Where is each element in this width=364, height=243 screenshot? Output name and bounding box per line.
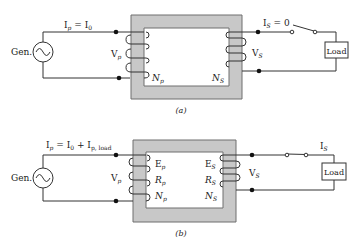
load-a: Load	[325, 42, 348, 58]
secondary-current-label: IS	[320, 141, 328, 152]
terminal-dot	[114, 199, 119, 204]
switch-contact-icon	[285, 153, 289, 157]
primary-voltage-label: Vp	[110, 173, 122, 185]
primary-current-label: Ip = I0 + Ip, load	[46, 140, 112, 152]
generator-label: Gen.	[11, 47, 32, 57]
secondary-turns-label: NS	[211, 73, 224, 84]
diagram-b: Gen. Ip = I0 + Ip, load Vp Ep Rp Np	[11, 140, 346, 238]
secondary-voltage-label: VS	[251, 48, 263, 59]
secondary-resistance-label: RS	[204, 175, 216, 186]
terminal-dot	[256, 30, 261, 35]
caption-a: (a)	[175, 106, 186, 115]
terminal-dot	[114, 30, 119, 35]
primary-resistance-label: Rp	[154, 175, 166, 187]
generator-label: Gen.	[11, 173, 32, 183]
load-b: Load	[322, 163, 346, 180]
secondary-emf-label: ES	[205, 159, 216, 170]
transformer-core-b	[133, 140, 236, 222]
transformer-diagrams: Gen. Ip = I0 Vp Np Load	[0, 0, 364, 243]
primary-current-label: Ip = I0	[64, 20, 92, 32]
primary-voltage-label: Vp	[110, 49, 122, 61]
primary-turns-label: Np	[151, 73, 164, 85]
secondary-circuit-b	[220, 154, 334, 190]
terminal-dot	[257, 69, 262, 74]
generator-b: Gen.	[11, 168, 53, 188]
terminal-dot	[250, 153, 255, 158]
primary-turns-label: Np	[154, 191, 167, 203]
transformer-core-a	[131, 15, 242, 99]
load-label: Load	[326, 47, 346, 56]
terminal-dot	[114, 153, 119, 158]
terminal-dot	[250, 188, 255, 193]
terminal-dot	[117, 76, 122, 81]
diagram-a: Gen. Ip = I0 Vp Np Load	[11, 15, 348, 115]
secondary-turns-label: NS	[204, 191, 217, 202]
switch-contact-icon	[304, 153, 308, 157]
primary-emf-label: Ep	[155, 159, 166, 171]
generator-a: Gen.	[11, 42, 53, 62]
caption-b: (b)	[175, 229, 186, 238]
switch-contact-icon	[290, 30, 294, 34]
switch-contact-icon	[313, 30, 317, 34]
secondary-voltage-label: VS	[248, 168, 260, 179]
secondary-current-label: IS = 0	[263, 18, 290, 29]
load-label: Load	[324, 168, 344, 177]
